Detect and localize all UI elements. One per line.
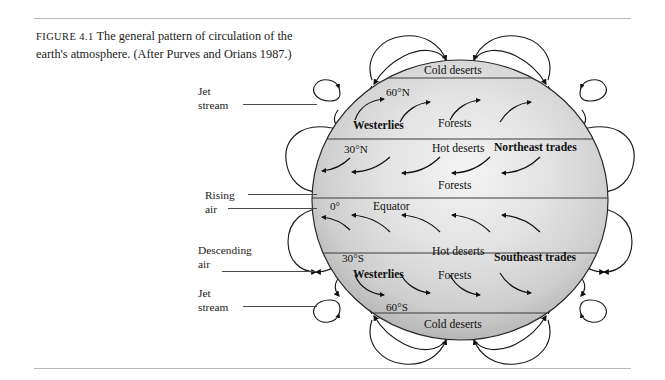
earth-globe xyxy=(310,60,610,340)
lat-30n: 30°N xyxy=(344,143,368,155)
lat-60n: 60°N xyxy=(386,86,410,98)
callout-jet-stream-south: Jet stream xyxy=(198,286,228,314)
biome-cold-deserts-north: Cold deserts xyxy=(424,64,482,77)
globe-sphere xyxy=(312,60,608,340)
biome-hot-deserts-south: Hot deserts xyxy=(432,245,484,258)
jet-stream-vortex-south-left xyxy=(314,300,340,322)
callout-descending-air-line1: Descending xyxy=(198,243,252,257)
leader-jet-stream-north xyxy=(243,104,317,105)
jet-stream-vortex-north-left xyxy=(314,80,340,101)
leader-rising-air-1 xyxy=(248,194,317,195)
callout-jet-stream-south-line2: stream xyxy=(198,300,228,314)
jet-stream-vortex-north-right xyxy=(580,80,606,101)
biome-cold-deserts-south: Cold deserts xyxy=(424,318,482,331)
lat-0: 0° xyxy=(330,200,340,212)
callout-descending-air: Descending air xyxy=(198,243,252,271)
leader-rising-air-2 xyxy=(228,208,317,209)
biome-forests-north-high: Forests xyxy=(438,117,472,130)
lat-60s: 60°S xyxy=(386,301,408,313)
callout-jet-stream-south-line1: Jet xyxy=(198,286,228,300)
callout-jet-stream-north-line1: Jet xyxy=(198,84,228,98)
wind-westerlies-north: Westerlies xyxy=(353,119,404,132)
atmospheric-circulation-diagram xyxy=(0,0,665,380)
leader-descending-air xyxy=(222,271,317,272)
biome-hot-deserts-north: Hot deserts xyxy=(432,142,484,155)
callout-rising-air-line2: air xyxy=(205,202,235,216)
callout-rising-air-line1: Rising xyxy=(205,188,235,202)
lat-30s: 30°S xyxy=(342,252,364,264)
wind-southeast-trades: Southeast trades xyxy=(494,251,576,264)
wind-westerlies-south: Westerlies xyxy=(353,268,404,281)
biome-forests-north-low: Forests xyxy=(438,179,472,192)
jet-stream-vortex-south-right xyxy=(580,300,606,322)
callout-jet-stream-north: Jet stream xyxy=(198,84,228,112)
callout-rising-air: Rising air xyxy=(205,188,235,216)
callout-descending-air-line2: air xyxy=(198,257,252,271)
biome-forests-south: Forests xyxy=(438,269,472,282)
leader-jet-stream-south xyxy=(243,306,317,307)
equator-label: Equator xyxy=(373,200,410,213)
wind-northeast-trades: Northeast trades xyxy=(494,141,577,154)
callout-jet-stream-north-line2: stream xyxy=(198,98,228,112)
figure-page: FIGURE 4.1 The general pattern of circul… xyxy=(0,0,665,380)
